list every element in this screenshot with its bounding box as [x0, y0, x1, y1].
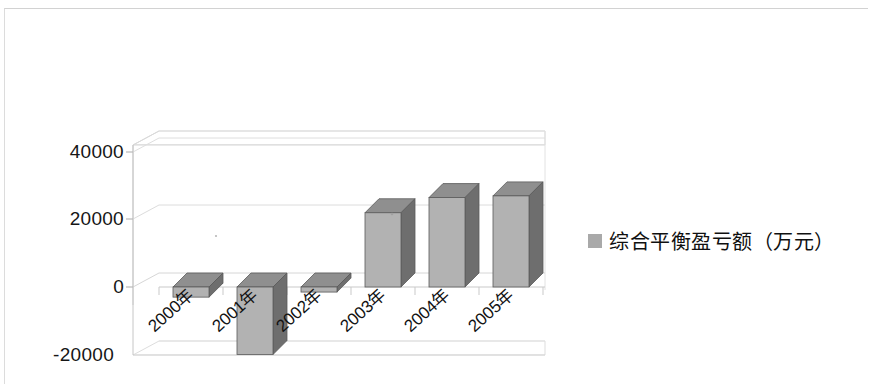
bar-chart: 40000 20000 0 -20000 2000年 2001年 2002年 2…: [0, 0, 873, 388]
plot-floor: [133, 341, 545, 355]
chart-plot-svg: [0, 0, 873, 388]
scan-speck: [215, 235, 217, 237]
legend-swatch-icon: [588, 234, 602, 248]
figure-page: 40000 20000 0 -20000 2000年 2001年 2002年 2…: [0, 0, 873, 388]
bar-2003年: [365, 199, 415, 287]
value-axis: [126, 145, 133, 355]
legend-series-label: 综合平衡盈亏额（万元）: [609, 226, 835, 255]
scan-speck: [391, 213, 394, 216]
bar-2005年: [493, 182, 543, 287]
bar-2004年: [429, 184, 479, 287]
chart-legend: 综合平衡盈亏额（万元）: [588, 226, 835, 255]
